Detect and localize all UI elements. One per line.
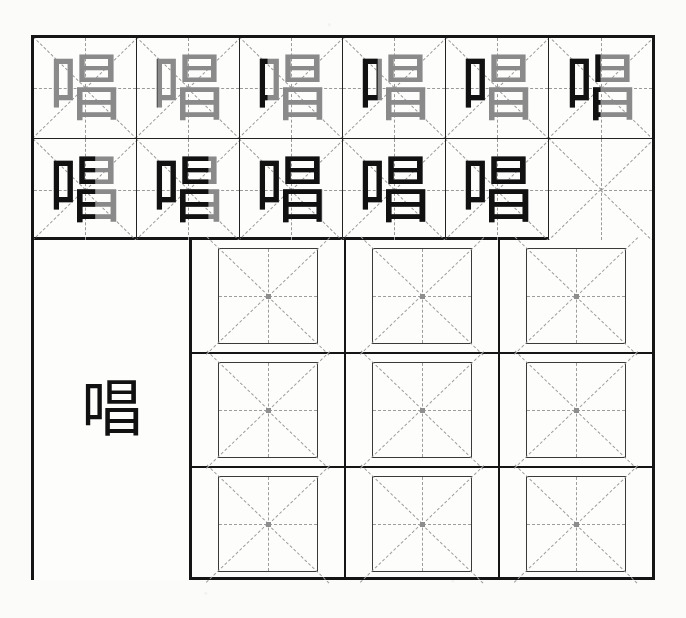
- mizige-box[interactable]: [218, 362, 318, 458]
- stroke-demo-glyph-stack: 唱唱: [240, 139, 342, 240]
- practice-cell[interactable]: [346, 240, 500, 352]
- stroke-demo-cell[interactable]: 唱唱: [343, 38, 446, 138]
- stroke-demo-cell[interactable]: 唱唱: [446, 139, 549, 240]
- model-character: 唱: [81, 379, 143, 441]
- center-dot: [420, 522, 425, 527]
- guide-diagonal-br: [421, 410, 483, 469]
- guide-diagonal-bl: [360, 523, 422, 582]
- stroke-demo-glyph-stack: 唱唱: [446, 38, 548, 138]
- guide-diagonal-tl: [361, 465, 423, 524]
- guide-diagonal-bl: [549, 189, 601, 240]
- center-dot: [420, 294, 425, 299]
- guide-diagonal-tl: [207, 351, 269, 410]
- center-dot: [574, 408, 579, 413]
- stroke-order-section: 唱唱唱唱唱唱唱唱唱唱唱唱 唱唱唱唱唱唱唱唱唱唱: [34, 38, 652, 240]
- guide-diagonal-tl: [361, 237, 423, 296]
- practice-worksheet: 唱唱唱唱唱唱唱唱唱唱唱唱 唱唱唱唱唱唱唱唱唱唱 唱: [31, 35, 655, 580]
- guide-diagonal-tr: [268, 465, 330, 524]
- stroke-demo-cell[interactable]: 唱唱: [240, 38, 343, 138]
- guide-diagonal-tr: [422, 351, 484, 410]
- guide-diagonal-br: [267, 410, 329, 469]
- guide-diagonal-tl: [549, 139, 601, 190]
- stroke-order-row-2: 唱唱唱唱唱唱唱唱唱唱: [34, 139, 652, 240]
- stroke-demo-cell-empty[interactable]: [549, 139, 652, 240]
- guide-diagonal-bl: [206, 523, 268, 582]
- guide-diagonal-br: [267, 524, 329, 583]
- stroke-demo-glyph-stack: 唱唱: [343, 38, 445, 138]
- stroke-demo-glyph-stack: 唱唱: [34, 38, 136, 138]
- center-dot: [266, 522, 271, 527]
- stroke-demo-glyph-stack: 唱唱: [549, 38, 652, 138]
- mizige-box[interactable]: [218, 248, 318, 344]
- stroke-demo-cell[interactable]: 唱唱: [34, 38, 137, 138]
- guide-diagonal-bl: [206, 295, 268, 354]
- guide-diagonal-tl: [515, 351, 577, 410]
- mizige-box[interactable]: [218, 476, 318, 572]
- guide-diagonal-tl: [361, 351, 423, 410]
- mizige-guides: [549, 139, 652, 240]
- practice-cell[interactable]: [346, 468, 500, 580]
- guide-diagonal-bl: [514, 295, 576, 354]
- guide-diagonal-tr: [422, 465, 484, 524]
- guide-diagonal-tr: [576, 351, 638, 410]
- stroke-demo-cell[interactable]: 唱唱: [549, 38, 652, 138]
- stroke-demo-glyph-stack: 唱唱: [137, 139, 239, 240]
- guide-diagonal-br: [575, 410, 637, 469]
- guide-diagonal-br: [421, 296, 483, 355]
- ghost-character: 唱: [48, 51, 122, 125]
- guide-diagonal-br: [600, 190, 652, 241]
- guide-vertical: [601, 139, 602, 240]
- practice-row: [192, 240, 652, 354]
- guide-diagonal-tr: [576, 237, 638, 296]
- stroke-demo-cell[interactable]: 唱唱: [137, 139, 240, 240]
- stroke-demo-cell[interactable]: 唱唱: [446, 38, 549, 138]
- stroke-demo-cell[interactable]: 唱唱: [137, 38, 240, 138]
- guide-diagonal-br: [267, 296, 329, 355]
- ghost-character: 唱: [151, 51, 225, 125]
- guide-diagonal-bl: [514, 409, 576, 468]
- stroke-demo-cell[interactable]: 唱唱: [240, 139, 343, 240]
- stroke-demo-glyph-stack: 唱唱: [240, 38, 342, 138]
- stroke-demo-cell[interactable]: 唱唱: [343, 139, 446, 240]
- mizige-box[interactable]: [372, 476, 472, 572]
- guide-diagonal-tr: [268, 237, 330, 296]
- center-dot: [266, 408, 271, 413]
- guide-diagonal-tl: [515, 465, 577, 524]
- stroke-demo-glyph-stack: 唱唱: [34, 139, 136, 240]
- ink-stroke-layer: 唱: [446, 139, 548, 240]
- guide-diagonal-br: [421, 524, 483, 583]
- guide-diagonal-br: [575, 296, 637, 355]
- stroke-demo-cell[interactable]: 唱唱: [34, 139, 137, 240]
- model-character-panel: 唱: [34, 240, 192, 580]
- mizige-box[interactable]: [526, 362, 626, 458]
- guide-diagonal-tr: [576, 465, 638, 524]
- guide-diagonal-tr: [422, 237, 484, 296]
- practice-grid: [192, 240, 652, 580]
- stroke-demo-glyph-stack: 唱唱: [137, 38, 239, 138]
- inked-character: 唱: [357, 153, 431, 227]
- mizige-box[interactable]: [526, 248, 626, 344]
- practice-row: [192, 354, 652, 468]
- practice-cell[interactable]: [500, 354, 652, 466]
- stroke-order-row-1: 唱唱唱唱唱唱唱唱唱唱唱唱: [34, 38, 652, 139]
- guide-diagonal-bl: [206, 409, 268, 468]
- stroke-demo-glyph-stack: 唱唱: [446, 139, 548, 240]
- practice-cell[interactable]: [500, 468, 652, 580]
- practice-cell[interactable]: [346, 354, 500, 466]
- mizige-box[interactable]: [372, 362, 472, 458]
- guide-horizontal: [549, 190, 652, 191]
- center-dot: [420, 408, 425, 413]
- practice-cell[interactable]: [192, 354, 346, 466]
- stroke-demo-glyph-stack: 唱唱: [343, 139, 445, 240]
- center-dot: [266, 294, 271, 299]
- guide-diagonal-tl: [207, 465, 269, 524]
- guide-diagonal-bl: [360, 409, 422, 468]
- mizige-box[interactable]: [372, 248, 472, 344]
- guide-diagonal-tl: [207, 237, 269, 296]
- guide-diagonal-br: [575, 524, 637, 583]
- practice-cell[interactable]: [500, 240, 652, 352]
- practice-cell[interactable]: [192, 468, 346, 580]
- guide-diagonal-tl: [515, 237, 577, 296]
- practice-cell[interactable]: [192, 240, 346, 352]
- mizige-box[interactable]: [526, 476, 626, 572]
